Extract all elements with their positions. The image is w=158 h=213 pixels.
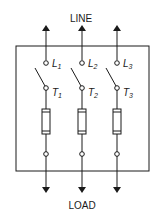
load-terminal-3 bbox=[115, 86, 120, 91]
svg-text:T2: T2 bbox=[88, 87, 98, 99]
svg-text:T1: T1 bbox=[52, 87, 62, 99]
fuse-2 bbox=[78, 109, 86, 134]
load-terminal-1 bbox=[44, 86, 49, 91]
pole-3: L3 T3 bbox=[106, 28, 133, 190]
line-terminal-3 bbox=[115, 61, 120, 66]
fused-switch-diagram: LINE L1 T1 L2 T2 bbox=[0, 0, 158, 213]
line-terminal-2 bbox=[80, 61, 85, 66]
load-terminal-2 bbox=[80, 86, 85, 91]
svg-text:L2: L2 bbox=[88, 58, 98, 70]
output-terminal-3 bbox=[115, 152, 120, 157]
load-label: LOAD bbox=[68, 200, 95, 211]
svg-text:T3: T3 bbox=[123, 87, 133, 99]
svg-text:L1: L1 bbox=[52, 58, 62, 70]
switch-blade-3 bbox=[106, 68, 116, 86]
switch-blade-2 bbox=[71, 68, 81, 86]
fuse-1 bbox=[42, 109, 50, 134]
line-label: LINE bbox=[70, 13, 93, 24]
svg-text:L3: L3 bbox=[123, 58, 133, 70]
pole-1: L1 T1 bbox=[35, 28, 62, 190]
fuse-3 bbox=[113, 109, 121, 134]
output-terminal-1 bbox=[44, 152, 49, 157]
line-terminal-1 bbox=[44, 61, 49, 66]
output-terminal-2 bbox=[80, 152, 85, 157]
pole-2: L2 T2 bbox=[71, 28, 98, 190]
switch-blade-1 bbox=[35, 68, 45, 86]
